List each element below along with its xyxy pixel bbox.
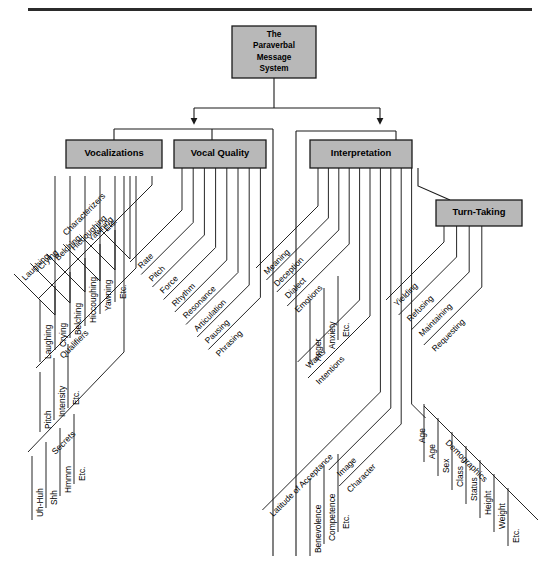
- diagram-page: TheParaverbalMessageSystemVocalizationsV…: [0, 0, 560, 579]
- leaf-demographic-5: Weight: [491, 503, 509, 529]
- leaf-emotion-2: Etc.: [335, 323, 353, 337]
- leaf-demographic-0: Age: [421, 444, 439, 459]
- leaf-char-5: Etc.: [112, 285, 130, 299]
- leaf-secret-3: Etc.: [71, 467, 89, 481]
- leaf-character-2: Etc.: [335, 515, 353, 529]
- leaf-text-layer: LaughingCryingBelchingHiccoughingYawning…: [0, 0, 560, 579]
- leaf-demographic-6: Etc.: [505, 529, 523, 543]
- group-label-secrets: Secrets: [45, 425, 78, 458]
- leaf-qual-2: Etc.: [65, 391, 83, 405]
- leaf-interpretation-age: Age: [411, 428, 429, 443]
